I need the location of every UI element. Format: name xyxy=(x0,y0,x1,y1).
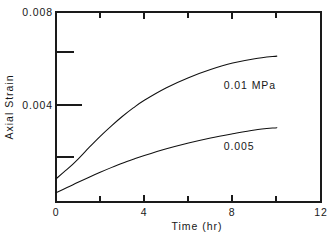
curve-0005 xyxy=(56,128,277,193)
series-label-0005: 0.005 xyxy=(224,140,255,152)
y-tick-label-0008: 0.008 xyxy=(22,6,53,18)
series-label-001-mpa: 0.01 MPa xyxy=(224,79,276,91)
curve-001-mpa xyxy=(56,56,277,179)
x-tick-label-0: 0 xyxy=(53,206,60,218)
x-tick-label-4: 4 xyxy=(141,206,148,218)
axial-strain-line-chart: 0.01 MPa 0.005 0.008 0.004 0 4 8 12 Time… xyxy=(0,0,327,233)
x-tick-label-8: 8 xyxy=(229,206,236,218)
x-axis-title: Time (hr) xyxy=(171,220,222,232)
x-tick-label-12: 12 xyxy=(314,206,327,218)
plot-frame xyxy=(56,12,321,202)
chart-figure: 0.01 MPa 0.005 0.008 0.004 0 4 8 12 Time… xyxy=(0,0,327,233)
y-tick-label-0004: 0.004 xyxy=(22,99,53,111)
y-axis-title: Axial Strain xyxy=(3,74,15,139)
